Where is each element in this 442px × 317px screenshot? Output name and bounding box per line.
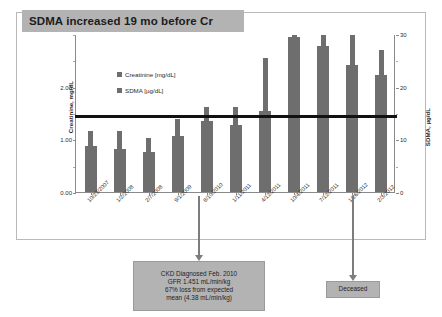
bar-creatinine xyxy=(85,146,97,192)
legend-label: Creatinine [mg/dL] xyxy=(125,71,176,78)
y-axis-right-tick-mark xyxy=(396,140,399,141)
y-axis-right-tick-mark xyxy=(396,88,399,89)
chart-screenshot: Creatinine, mg/dL SDMA, µg/dL 0.001.002.… xyxy=(0,0,442,317)
y-axis-right-title: SDMA, µg/dL xyxy=(424,108,431,146)
legend-swatch-icon xyxy=(117,88,122,93)
y-axis-right-minor-tick xyxy=(396,167,398,168)
callout-line: 67% loss from expected xyxy=(165,286,233,294)
y-axis-left-tick-label: 1.00 xyxy=(60,137,72,143)
bar-group xyxy=(134,35,163,192)
bar-group xyxy=(105,35,134,192)
y-axis-left-tick-label: 0.00 xyxy=(60,190,72,196)
y-axis-right-tick-label: 20 xyxy=(400,85,407,91)
bar-group xyxy=(280,35,309,192)
deceased-callout: Deceased xyxy=(326,281,380,298)
bar-group xyxy=(367,35,396,192)
ckd-annotation-arrow xyxy=(198,196,200,256)
y-axis-left-minor-tick xyxy=(73,61,75,62)
y-axis-left-tick-label: 2.00 xyxy=(60,85,72,91)
bar-creatinine xyxy=(230,125,242,192)
bar-group xyxy=(309,35,338,192)
y-axis-left-minor-tick xyxy=(73,35,75,36)
callout-line: Deceased xyxy=(339,285,368,293)
bar-creatinine xyxy=(375,75,387,192)
bar-creatinine xyxy=(346,65,358,192)
legend-entry: Creatinine [mg/dL] xyxy=(117,71,176,78)
legend-label: SDMA [µg/dL] xyxy=(125,87,163,94)
bar-creatinine xyxy=(114,149,126,192)
bar-group xyxy=(338,35,367,192)
y-axis-right-minor-tick xyxy=(396,61,398,62)
y-axis-right-tick-label: 10 xyxy=(400,137,407,143)
callout-line: GFR 1.451 mL/min/kg xyxy=(168,278,231,286)
bar-group xyxy=(251,35,280,192)
reference-line xyxy=(75,115,397,118)
bar-group xyxy=(221,35,250,192)
bar-creatinine xyxy=(317,46,329,192)
y-axis-right-tick-label: 0 xyxy=(400,190,403,196)
bar-creatinine xyxy=(259,111,271,192)
bar-creatinine xyxy=(172,136,184,192)
bar-creatinine xyxy=(288,37,300,192)
callout-line: CKD Diagnosed Feb. 2010 xyxy=(161,270,237,278)
y-axis-right-tick-label: 30 xyxy=(400,32,407,38)
legend-swatch-icon xyxy=(117,72,122,77)
plot-area: Creatinine, mg/dL SDMA, µg/dL 0.001.002.… xyxy=(75,35,395,193)
bar-group xyxy=(163,35,192,192)
legend-entry: SDMA [µg/dL] xyxy=(117,87,176,94)
y-axis-left-tick-mark xyxy=(73,193,76,194)
y-axis-right-tick-mark xyxy=(396,193,399,194)
bar-group xyxy=(76,35,105,192)
bar-creatinine xyxy=(201,121,213,192)
chart-title-banner: SDMA increased 19 mo before Cr xyxy=(22,10,244,32)
y-axis-right-tick-mark xyxy=(396,35,399,36)
chart-legend: Creatinine [mg/dL]SDMA [µg/dL] xyxy=(117,71,176,94)
callout-line: mean (4.38 mL/min/kg) xyxy=(166,294,232,302)
bar-group xyxy=(192,35,221,192)
y-axis-left-minor-tick xyxy=(73,167,75,168)
ckd-diagnosis-callout: CKD Diagnosed Feb. 2010GFR 1.451 mL/min/… xyxy=(133,261,265,311)
chart-title: SDMA increased 19 mo before Cr xyxy=(29,15,213,27)
deceased-annotation-arrow xyxy=(352,196,354,276)
bar-creatinine xyxy=(143,152,155,192)
chart-frame: Creatinine, mg/dL SDMA, µg/dL 0.001.002.… xyxy=(16,12,426,240)
